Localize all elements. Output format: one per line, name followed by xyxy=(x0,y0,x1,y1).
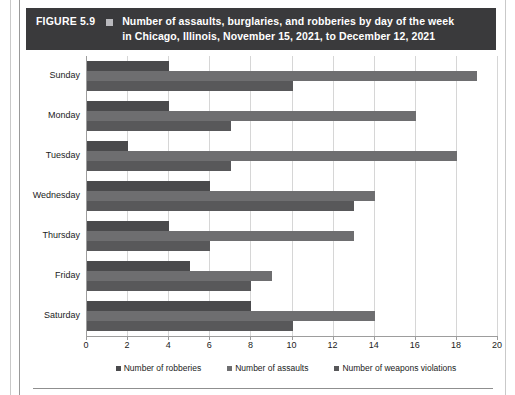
bar xyxy=(87,271,272,281)
bar xyxy=(87,111,416,121)
legend-label: Number of robberies xyxy=(124,363,201,373)
bar xyxy=(87,261,190,271)
bar xyxy=(87,241,210,251)
bar xyxy=(87,321,293,331)
bar xyxy=(87,231,354,241)
legend-label: Number of assaults xyxy=(235,363,308,373)
bar xyxy=(87,161,231,171)
gridline xyxy=(415,56,416,336)
x-axis-tick-label: 14 xyxy=(359,340,389,350)
gridline xyxy=(456,56,457,336)
page-bottom-rule xyxy=(33,388,493,389)
figure-title-line-1: Number of assaults, burglaries, and robb… xyxy=(122,15,454,27)
chart-legend: Number of robberiesNumber of assaultsNum… xyxy=(86,361,486,375)
x-axis-tick-label: 20 xyxy=(482,340,512,350)
square-bullet-icon xyxy=(106,19,113,26)
bar xyxy=(87,191,375,201)
x-axis-tick-label: 0 xyxy=(71,340,101,350)
y-axis-tick-labels: SundayMondayTuesdayWednesdayThursdayFrid… xyxy=(0,56,80,336)
y-axis-tick-label: Wednesday xyxy=(2,190,80,200)
x-axis-tick-label: 6 xyxy=(194,340,224,350)
gridline xyxy=(497,56,498,336)
bar xyxy=(87,101,169,111)
bar xyxy=(87,221,169,231)
figure-page: FIGURE 5.9 Number of assaults, burglarie… xyxy=(0,0,515,395)
y-axis-tick-label: Monday xyxy=(2,110,80,120)
figure-title-banner: FIGURE 5.9 Number of assaults, burglarie… xyxy=(26,8,496,50)
x-axis-tick-labels: 02468101214161820 xyxy=(86,340,497,354)
x-axis-tick-label: 2 xyxy=(112,340,142,350)
y-axis-tick-label: Thursday xyxy=(2,230,80,240)
x-axis-tick-label: 10 xyxy=(277,340,307,350)
legend-swatch-icon xyxy=(116,366,121,371)
bar xyxy=(87,151,457,161)
bar xyxy=(87,311,375,321)
plot-area xyxy=(86,56,497,336)
y-axis-tick-label: Tuesday xyxy=(2,150,80,160)
bar xyxy=(87,71,477,81)
x-axis-tick-label: 8 xyxy=(235,340,265,350)
figure-title-line-2: in Chicago, Illinois, November 15, 2021,… xyxy=(122,30,435,42)
bar xyxy=(87,181,210,191)
bar xyxy=(87,81,293,91)
bar xyxy=(87,121,231,131)
bar xyxy=(87,281,251,291)
figure-title-text: Number of assaults, burglaries, and robb… xyxy=(122,14,454,44)
bar xyxy=(87,141,128,151)
legend-swatch-icon xyxy=(334,366,339,371)
x-axis-tick-label: 18 xyxy=(441,340,471,350)
page-edge-right xyxy=(505,0,506,395)
bar xyxy=(87,61,169,71)
bar xyxy=(87,201,354,211)
bar xyxy=(87,301,251,311)
legend-item: Number of robberies xyxy=(116,363,201,373)
legend-item: Number of assaults xyxy=(227,363,308,373)
y-axis-tick-label: Saturday xyxy=(2,310,80,320)
x-axis-tick-label: 12 xyxy=(318,340,348,350)
legend-item: Number of weapons violations xyxy=(334,363,456,373)
legend-label: Number of weapons violations xyxy=(342,363,456,373)
y-axis-tick-label: Friday xyxy=(2,270,80,280)
x-axis-tick-label: 16 xyxy=(400,340,430,350)
y-axis-tick-label: Sunday xyxy=(2,70,80,80)
legend-swatch-icon xyxy=(227,366,232,371)
figure-number-label: FIGURE 5.9 xyxy=(36,14,95,27)
x-axis-tick-label: 4 xyxy=(153,340,183,350)
